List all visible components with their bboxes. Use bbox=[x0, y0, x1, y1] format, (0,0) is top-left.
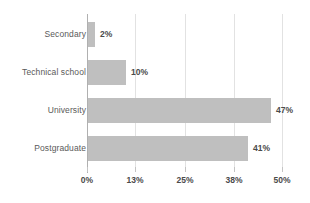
plot-area: 2% 10% 47% 41% bbox=[87, 14, 283, 167]
xtick-label-4: 50% bbox=[273, 176, 290, 185]
bar-technical-school bbox=[87, 60, 126, 85]
xtick-label-3: 38% bbox=[225, 176, 242, 185]
category-label-technical-school: Technical school bbox=[22, 68, 86, 77]
bar-value-postgraduate: 41% bbox=[253, 144, 270, 153]
bar-value-technical-school: 10% bbox=[131, 68, 148, 77]
category-label-postgraduate: Postgraduate bbox=[34, 144, 86, 153]
xtick-mark-0 bbox=[87, 167, 88, 172]
bar-secondary bbox=[87, 22, 95, 47]
bar-postgraduate bbox=[87, 136, 248, 161]
category-label-university: University bbox=[48, 106, 86, 115]
y-axis-line bbox=[87, 14, 88, 173]
xtick-label-0: 0% bbox=[81, 176, 93, 185]
xtick-mark-3 bbox=[234, 167, 235, 172]
bar-university bbox=[87, 98, 271, 123]
category-label-secondary: Secondary bbox=[44, 30, 86, 39]
xtick-label-2: 25% bbox=[176, 176, 193, 185]
bar-chart: 2% 10% 47% 41% Secondary Technical schoo… bbox=[0, 0, 310, 203]
xtick-mark-4 bbox=[282, 167, 283, 172]
xtick-mark-2 bbox=[185, 167, 186, 172]
xtick-label-1: 13% bbox=[126, 176, 143, 185]
gridline-4 bbox=[282, 14, 283, 167]
bar-value-university: 47% bbox=[276, 106, 293, 115]
xtick-mark-1 bbox=[135, 167, 136, 172]
bar-value-secondary: 2% bbox=[100, 30, 112, 39]
